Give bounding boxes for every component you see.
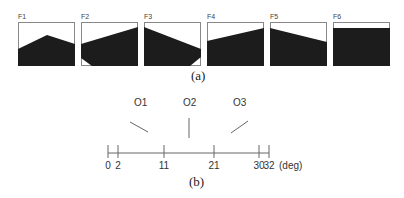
tick-label-2: 2	[115, 160, 121, 171]
axis-diagram	[0, 0, 404, 198]
tick-label-0: 0	[105, 160, 111, 171]
orientation-label-o1: O1	[134, 97, 147, 108]
orientation-label-o3: O3	[233, 97, 246, 108]
orientation-label-o2: O2	[183, 97, 196, 108]
tick-label-32: 32	[263, 160, 274, 171]
caption-b: (b)	[189, 174, 204, 190]
tick-label-11: 11	[159, 160, 169, 171]
axis-unit-label: (deg)	[279, 160, 302, 171]
axis-ticks	[108, 145, 269, 158]
tick-label-21: 21	[208, 160, 219, 171]
orientation-line-o1	[130, 122, 148, 132]
orientation-line-o3	[231, 121, 248, 133]
